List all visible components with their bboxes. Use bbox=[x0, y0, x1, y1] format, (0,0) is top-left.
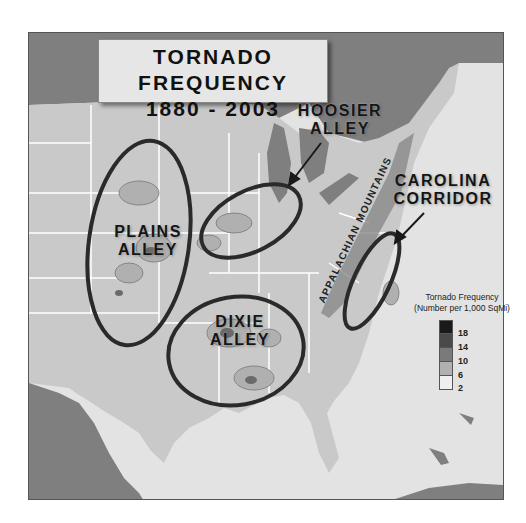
label-plains-alley: PLAINS ALLEY bbox=[108, 223, 188, 259]
legend-tick-18: 18 bbox=[458, 328, 468, 338]
legend-tick-6: 6 bbox=[458, 370, 463, 380]
title-line-2: 1880 - 2003 bbox=[99, 96, 327, 122]
legend-tick-10: 10 bbox=[458, 356, 468, 366]
legend-swatch-18 bbox=[439, 320, 453, 334]
legend: Tornado Frequency (Number per 1,000 SqMi… bbox=[412, 292, 512, 314]
legend-scale: 18 14 10 6 2 bbox=[439, 320, 453, 390]
legend-swatch-10 bbox=[439, 348, 453, 362]
legend-swatch-14 bbox=[439, 334, 453, 348]
legend-swatch-2 bbox=[439, 376, 453, 390]
title-line-1: TORNADO FREQUENCY bbox=[99, 44, 327, 96]
label-hoosier-alley: HOOSIER ALLEY bbox=[295, 102, 385, 138]
label-carolina-corridor: CAROLINA CORRIDOR bbox=[388, 172, 498, 208]
map-title: TORNADO FREQUENCY 1880 - 2003 bbox=[98, 39, 328, 103]
legend-title: Tornado Frequency bbox=[412, 292, 512, 303]
label-dixie-alley: DIXIE ALLEY bbox=[200, 313, 280, 349]
legend-subtitle: (Number per 1,000 SqMi) bbox=[412, 303, 512, 314]
legend-tick-2: 2 bbox=[458, 383, 463, 393]
legend-tick-14: 14 bbox=[458, 342, 468, 352]
legend-swatch-6 bbox=[439, 362, 453, 376]
